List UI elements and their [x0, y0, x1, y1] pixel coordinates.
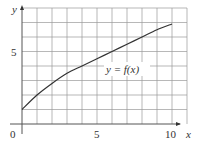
x-axis	[10, 122, 181, 126]
y-axis-label: y	[11, 3, 17, 15]
y-tick-5: 5	[11, 46, 17, 58]
y-axis	[20, 5, 24, 134]
curve-label: y = f(x)	[105, 63, 139, 76]
chart-canvas: y x 0 5 10 5 y = f(x)	[0, 0, 201, 149]
y-axis-arrow-icon	[20, 5, 24, 10]
origin-label: 0	[10, 128, 16, 140]
x-tick-10: 10	[165, 128, 177, 140]
x-axis-label: x	[185, 128, 191, 140]
x-axis-arrow-icon	[176, 122, 181, 126]
x-tick-5: 5	[94, 128, 100, 140]
